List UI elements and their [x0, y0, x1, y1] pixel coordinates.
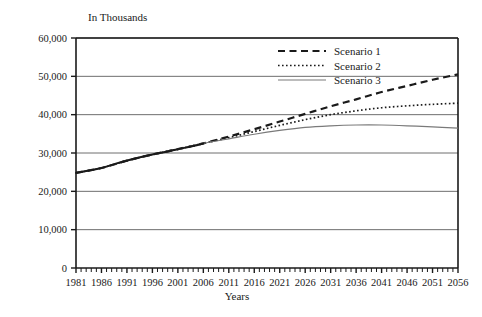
x-tick-label: 1996: [142, 277, 163, 288]
x-tick-label: 2041: [371, 277, 392, 288]
x-tick-label: 2046: [397, 277, 418, 288]
unit-label: In Thousands: [88, 11, 147, 23]
x-tick-label: 2056: [448, 277, 469, 288]
x-tick-label: 1986: [91, 277, 112, 288]
chart-container: 010,00020,00030,00040,00050,00060,000 19…: [0, 0, 482, 317]
y-tick-label: 50,000: [38, 71, 67, 82]
x-tick-labels-group: 1981198619911996200120062011201620212026…: [66, 277, 469, 288]
x-tick-label: 2051: [422, 277, 443, 288]
gridlines-group: [76, 38, 458, 230]
x-tick-label: 1981: [66, 277, 87, 288]
x-tick-label: 2001: [167, 277, 188, 288]
y-tick-label: 10,000: [38, 224, 67, 235]
y-tick-label: 30,000: [38, 148, 67, 159]
x-tick-label: 1991: [116, 277, 137, 288]
series-line-3: [76, 125, 458, 173]
series-paths-group: [76, 74, 458, 173]
y-tick-label: 20,000: [38, 186, 67, 197]
y-tick-labels-group: 010,00020,00030,00040,00050,00060,000: [38, 33, 67, 274]
x-tick-label: 2011: [218, 277, 239, 288]
x-axis-title: Years: [225, 290, 250, 302]
historical-line: [76, 143, 203, 173]
legend-label-1: Scenario 1: [334, 45, 381, 57]
x-tick-label: 2016: [244, 277, 265, 288]
y-tick-label: 60,000: [38, 33, 67, 44]
legend-label-3: Scenario 3: [334, 74, 381, 86]
line-chart: 010,00020,00030,00040,00050,00060,000 19…: [0, 0, 482, 317]
x-tick-label: 2021: [269, 277, 290, 288]
x-tick-label: 2006: [193, 277, 214, 288]
series-line-2: [76, 103, 458, 173]
y-tick-label: 40,000: [38, 109, 67, 120]
x-tick-label: 2036: [346, 277, 367, 288]
x-tick-label: 2026: [295, 277, 316, 288]
x-tick-label: 2031: [320, 277, 341, 288]
chart-legend: Scenario 1Scenario 2Scenario 3: [278, 45, 381, 86]
legend-label-2: Scenario 2: [334, 60, 381, 72]
y-tick-label: 0: [62, 263, 67, 274]
